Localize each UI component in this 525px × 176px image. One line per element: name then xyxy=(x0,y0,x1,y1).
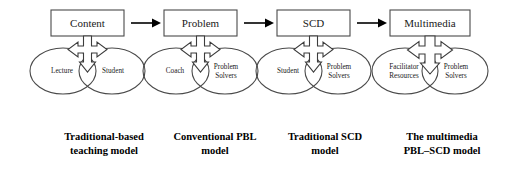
connector-1 xyxy=(131,19,161,28)
oval-lecture-label: Lecture xyxy=(51,67,73,75)
connector-3 xyxy=(357,19,387,28)
caption-4-line2: PBL–SCD model xyxy=(404,145,481,156)
caption-3-line1: Traditional SCD xyxy=(288,131,363,142)
connector-2 xyxy=(244,19,274,28)
box-content-label: Content xyxy=(70,17,105,29)
connector-2-arrowhead-icon xyxy=(265,19,274,28)
captions-row: Traditional-based teaching model Convent… xyxy=(64,131,480,156)
caption-4-line1: The multimedia xyxy=(406,131,478,142)
oval-problem-solvers-1-label-line2: Solvers xyxy=(215,72,237,80)
group-multimedia-pbl-scd: Multimedia Facilitator Resources Problem… xyxy=(372,10,488,94)
connector-3-arrowhead-icon xyxy=(378,19,387,28)
caption-2-line2: model xyxy=(201,145,228,156)
caption-3-line2: model xyxy=(311,145,338,156)
group-traditional-scd: SCD Student Problem Solvers xyxy=(256,10,371,94)
oval-problem-solvers-1-label-line1: Problem xyxy=(214,63,239,71)
diagram-root: Content Lecture Student Problem Coach Pr… xyxy=(0,0,525,176)
caption-2-line1: Conventional PBL xyxy=(173,131,256,142)
group-conventional-pbl: Problem Coach Problem Solvers xyxy=(143,10,258,94)
oval-facilitator-resources-label-line1: Facilitator xyxy=(389,63,419,71)
oval-facilitator-resources-label-line2: Resources xyxy=(389,72,419,80)
oval-problem-solvers-2-label-line1: Problem xyxy=(327,63,352,71)
caption-1-line1: Traditional-based xyxy=(64,131,144,142)
model-comparison-diagram: Content Lecture Student Problem Coach Pr… xyxy=(0,0,525,176)
group-traditional-based-teaching: Content Lecture Student xyxy=(30,10,145,94)
oval-coach-label: Coach xyxy=(166,67,185,75)
connector-1-arrowhead-icon xyxy=(152,19,161,28)
box-scd-label: SCD xyxy=(303,17,324,29)
oval-problem-solvers-2-label-line2: Solvers xyxy=(328,72,350,80)
oval-student-2-label: Student xyxy=(277,67,299,75)
oval-problem-solvers-3-label-line1: Problem xyxy=(444,63,469,71)
caption-1-line2: teaching model xyxy=(70,145,138,156)
box-problem-label: Problem xyxy=(182,17,220,29)
box-multimedia-label: Multimedia xyxy=(404,17,455,29)
oval-problem-solvers-3-label-line2: Solvers xyxy=(445,72,467,80)
oval-student-label: Student xyxy=(102,67,124,75)
